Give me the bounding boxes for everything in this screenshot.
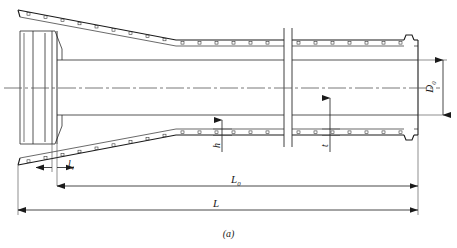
bell-lip-top — [18, 10, 20, 17]
socket-interior — [20, 31, 62, 144]
figure-container: D0 h t l4 L0 L (a) — [0, 0, 457, 248]
label-outer-diameter-sub: 0 — [430, 81, 437, 84]
label-socket-length-sub: 4 — [71, 164, 74, 171]
label-barrel-length: L0 — [231, 173, 241, 187]
bell-outer-bottom-profile — [18, 135, 284, 165]
wall-reinforcement-ticks-top — [27, 13, 402, 44]
label-total-length-base: L — [213, 197, 219, 209]
bell-lip-bottom — [18, 158, 20, 165]
bell-wall-band-top-inner — [20, 17, 284, 46]
bell-outer-top-profile — [18, 10, 284, 40]
label-wall-thickness-base: t — [319, 144, 330, 147]
label-band-height-base: h — [211, 143, 222, 148]
label-total-length: L — [213, 197, 219, 209]
label-outer-diameter: D0 — [423, 81, 437, 92]
label-band-height: h — [211, 143, 222, 148]
bell-wall-band-bottom-inner — [20, 129, 284, 158]
label-socket-length: l4 — [68, 158, 74, 171]
figure-caption: (a) — [0, 228, 457, 239]
label-barrel-length-sub: 0 — [237, 180, 240, 187]
barrel-spigot-groove-top — [404, 35, 414, 40]
label-outer-diameter-base: D — [423, 85, 435, 93]
label-wall-thickness: t — [319, 144, 330, 147]
pipe-drawing-svg — [0, 0, 457, 248]
barrel-spigot-groove-bottom — [404, 135, 414, 140]
drawing-body — [4, 10, 447, 215]
